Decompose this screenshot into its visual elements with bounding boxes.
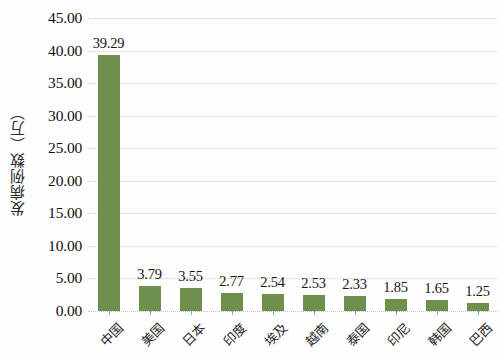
x-axis-tick (150, 311, 151, 315)
x-axis-category-label: 中国 (95, 318, 127, 350)
y-axis-tick-label: 40.00 (48, 42, 82, 60)
y-axis-tick-label: 0.00 (56, 302, 82, 320)
bar (467, 303, 489, 311)
bar-group: 2.53 (293, 0, 334, 311)
bar-value-label: 1.65 (424, 280, 449, 297)
bar-value-label: 1.85 (383, 279, 408, 296)
plot-area: 39.293.793.552.772.542.532.331.851.651.2… (88, 0, 498, 320)
y-axis-tick-label: 35.00 (48, 74, 82, 92)
y-axis-tick-label: 5.00 (56, 269, 82, 287)
x-axis-category-label: 日本 (177, 318, 209, 350)
bar (303, 295, 325, 311)
x-axis-tick (273, 311, 274, 315)
bar-value-label: 3.55 (178, 268, 203, 285)
x-axis-category-labels: 中国美国日本印度埃及越南泰国印尼韩国巴西 (88, 311, 498, 357)
x-axis-tick (478, 311, 479, 315)
bar-value-label: 3.79 (137, 266, 162, 283)
bar-value-label: 39.29 (93, 35, 125, 52)
bar-group: 1.65 (416, 0, 457, 311)
x-axis-tick (396, 311, 397, 315)
bar-group: 2.33 (334, 0, 375, 311)
x-axis-tick (437, 311, 438, 315)
bar-group: 39.29 (88, 0, 129, 311)
bar-value-label: 1.25 (465, 283, 490, 300)
x-axis-category-label: 印尼 (382, 318, 414, 350)
bar-group: 2.77 (211, 0, 252, 311)
x-axis-tick (314, 311, 315, 315)
x-axis-category-label: 美国 (136, 318, 168, 350)
bar (98, 55, 120, 311)
y-axis-tick-label: 25.00 (48, 139, 82, 157)
y-axis-title: 发病例数（万） (0, 0, 34, 320)
bars-layer: 39.293.793.552.772.542.532.331.851.651.2… (88, 0, 498, 320)
x-axis-tick (355, 311, 356, 315)
bar-group: 2.54 (252, 0, 293, 311)
bar (344, 296, 366, 311)
bar-group: 3.55 (170, 0, 211, 311)
bar-chart: 发病例数（万） 45.0040.0035.0030.0025.0020.0015… (0, 0, 500, 357)
bar-value-label: 2.54 (260, 274, 285, 291)
x-axis-category-label: 越南 (300, 318, 332, 350)
y-axis-tick-label: 45.00 (48, 9, 82, 27)
x-axis-tick (232, 311, 233, 315)
y-axis-tick-label: 10.00 (48, 237, 82, 255)
x-axis-category-label: 韩国 (423, 318, 455, 350)
x-axis-tick (109, 311, 110, 315)
bar (221, 293, 243, 311)
x-axis-category-label: 巴西 (464, 318, 496, 350)
bar (426, 300, 448, 311)
bar (385, 299, 407, 311)
y-axis-tick-label: 20.00 (48, 172, 82, 190)
y-axis-tick-label: 15.00 (48, 204, 82, 222)
y-axis-tick-label: 30.00 (48, 107, 82, 125)
bar-value-label: 2.33 (342, 276, 367, 293)
bar (262, 294, 284, 311)
bar-group: 3.79 (129, 0, 170, 311)
x-axis-category-label: 泰国 (341, 318, 373, 350)
x-axis-category-label: 印度 (218, 318, 250, 350)
y-axis-tick-labels: 45.0040.0035.0030.0025.0020.0015.0010.00… (34, 0, 86, 320)
x-axis-category-label: 埃及 (259, 318, 291, 350)
bar-value-label: 2.77 (219, 273, 244, 290)
bar-group: 1.25 (457, 0, 498, 311)
bar (139, 286, 161, 311)
bar (180, 288, 202, 311)
y-axis-title-label: 发病例数（万） (7, 104, 28, 216)
x-axis-tick (191, 311, 192, 315)
bar-value-label: 2.53 (301, 275, 326, 292)
bar-group: 1.85 (375, 0, 416, 311)
